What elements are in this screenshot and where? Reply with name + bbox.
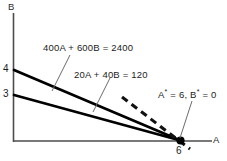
constraint-2-annotation: 20A + 40B = 120 bbox=[74, 70, 148, 80]
constraint-line-400a-600b bbox=[14, 70, 181, 141]
x-axis-label: A bbox=[213, 135, 220, 145]
y-tick-label-3: 3 bbox=[3, 89, 9, 99]
leader-line-constraint-1 bbox=[52, 55, 70, 91]
x-tick-label-6: 6 bbox=[176, 146, 182, 156]
constraint-1-annotation: 400A + 600B = 2400 bbox=[43, 43, 133, 53]
plot-canvas bbox=[0, 0, 227, 161]
optimal-solution-annotation: A* = 6, B* = 0 bbox=[158, 90, 216, 100]
solution-b-value: = 0 bbox=[200, 89, 217, 100]
y-axis-label: B bbox=[8, 2, 15, 12]
y-tick-label-4: 4 bbox=[3, 64, 9, 74]
leader-line-solution bbox=[180, 101, 192, 138]
linear-programming-graph: B A 4 3 6 400A + 600B = 2400 20A + 40B =… bbox=[0, 0, 227, 161]
constraint-line-20a-40b bbox=[14, 95, 181, 141]
solution-a-value: = 6, bbox=[167, 89, 190, 100]
